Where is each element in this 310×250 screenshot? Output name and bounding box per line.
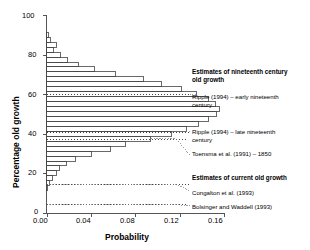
annotation-bolsinger: Bolsinger and Waddell (1993) xyxy=(192,203,272,211)
annotation-congalton: Congalton et al. (1993) xyxy=(192,189,254,197)
figure-container: Percentage old growth Probability 100 80… xyxy=(0,0,310,250)
annotation-group-nineteenth: Estimates of nineteenth century old grow… xyxy=(192,68,288,84)
axes-lines xyxy=(43,15,225,217)
plot-area xyxy=(0,0,310,250)
annotation-leader-lines xyxy=(47,94,197,206)
histogram-bars xyxy=(47,32,220,190)
reference-lines xyxy=(47,95,191,205)
annotation-toensma: Toensma et al. (1991) – 1850 xyxy=(192,150,271,158)
annotation-ripple-early: Ripple (1994) – early nineteenth century xyxy=(192,93,279,108)
annotation-group-current: Estimates of current old growth xyxy=(192,174,287,182)
annotation-ripple-late: Ripple (1994) – late nineteenth century xyxy=(192,128,275,143)
